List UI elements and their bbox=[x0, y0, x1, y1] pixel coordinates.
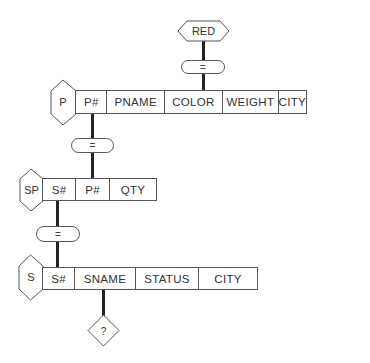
svg-text:SP: SP bbox=[24, 184, 39, 196]
column-p-color: COLOR bbox=[164, 91, 222, 113]
column-p-weight: WEIGHT bbox=[222, 91, 278, 113]
result-node-red: RED bbox=[177, 20, 230, 42]
equality-connector-3: = bbox=[36, 226, 80, 242]
column-s-snum: S# bbox=[43, 268, 74, 289]
column-sp-snum: S# bbox=[43, 179, 75, 200]
table-p: P# PNAME COLOR WEIGHT CITY bbox=[75, 90, 307, 114]
equality-label: = bbox=[90, 140, 96, 151]
column-s-status: STATUS bbox=[135, 268, 198, 289]
column-sp-qty: QTY bbox=[109, 179, 156, 200]
equality-connector-2: = bbox=[71, 138, 114, 153]
table-name-sp: SP bbox=[19, 168, 44, 212]
table-s: S# SNAME STATUS CITY bbox=[42, 267, 258, 290]
table-name-p: P bbox=[50, 79, 77, 126]
svg-text:S: S bbox=[27, 271, 34, 283]
column-s-city: CITY bbox=[198, 268, 257, 289]
equality-connector-1: = bbox=[181, 60, 225, 74]
result-node-label: RED bbox=[192, 25, 215, 37]
link-sname-to-output bbox=[102, 289, 105, 317]
column-p-city: CITY bbox=[278, 91, 306, 113]
output-node-query: ? bbox=[87, 314, 120, 347]
svg-text:P: P bbox=[59, 96, 66, 108]
equality-label: = bbox=[200, 62, 206, 73]
column-s-sname: SNAME bbox=[74, 268, 135, 289]
svg-text:?: ? bbox=[101, 326, 107, 337]
column-p-pname: PNAME bbox=[106, 91, 163, 113]
table-sp: S# P# QTY bbox=[42, 178, 157, 201]
column-sp-pnum: P# bbox=[75, 179, 109, 200]
equality-label: = bbox=[55, 229, 61, 240]
column-p-pnum: P# bbox=[76, 91, 106, 113]
table-name-s: S bbox=[18, 254, 44, 301]
